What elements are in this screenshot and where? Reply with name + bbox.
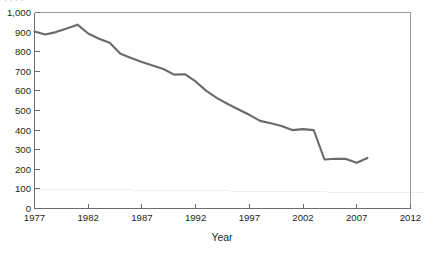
x-label-2007: 2007 (346, 212, 367, 223)
y-label-600: 600 (15, 85, 31, 96)
y-label-200: 200 (15, 164, 31, 175)
y-label-500: 500 (15, 105, 31, 116)
plot-frame (35, 13, 411, 209)
y-label-800: 800 (15, 46, 31, 57)
chart-figure: · · · · (0, 0, 425, 254)
y-axis-ticks (35, 13, 40, 189)
y-label-900: 900 (15, 27, 31, 38)
x-axis-tick-labels: 1977 1982 1987 1992 1997 2002 2007 2012 (24, 212, 421, 223)
y-label-100: 100 (15, 183, 31, 194)
y-label-300: 300 (15, 144, 31, 155)
x-label-2012: 2012 (400, 212, 421, 223)
y-label-400: 400 (15, 125, 31, 136)
line-chart-plot: 1,000 900 800 700 600 500 400 300 200 10… (0, 0, 425, 254)
y-label-1000: 1,000 (7, 7, 31, 18)
y-axis-tick-labels: 1,000 900 800 700 600 500 400 300 200 10… (7, 7, 31, 214)
x-axis-title: Year (212, 232, 234, 243)
data-series-line (35, 25, 368, 163)
x-label-1982: 1982 (78, 212, 99, 223)
y-label-700: 700 (15, 66, 31, 77)
faint-artifact-lines (34, 189, 424, 193)
x-axis-ticks (35, 204, 411, 209)
x-label-1977: 1977 (24, 212, 45, 223)
x-label-2002: 2002 (292, 212, 313, 223)
x-label-1992: 1992 (185, 212, 206, 223)
x-label-1987: 1987 (131, 212, 152, 223)
faint-scan-line (34, 189, 424, 193)
x-label-1997: 1997 (239, 212, 260, 223)
